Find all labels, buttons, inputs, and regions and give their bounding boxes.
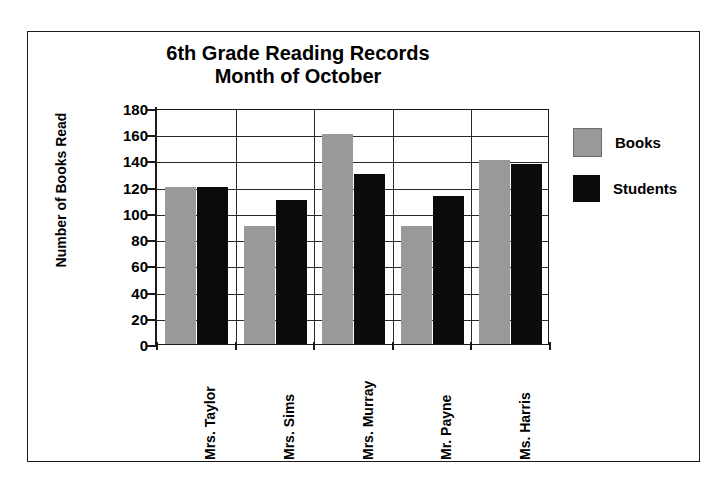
bar-students (433, 196, 464, 344)
y-axis-tick (147, 161, 156, 163)
legend-item-students: Students (573, 175, 713, 202)
plot-wrapper: 180160140120100806040200 (156, 109, 549, 345)
bar-students (197, 187, 228, 344)
bar-books (165, 187, 196, 344)
y-axis-tick (147, 345, 156, 347)
bar-group (314, 110, 393, 344)
y-axis-tick (147, 240, 156, 242)
x-axis-tick (235, 342, 237, 350)
y-axis-tick (147, 319, 156, 321)
y-axis-tick-label: 0 (96, 338, 148, 353)
y-axis-tick (147, 214, 156, 216)
x-axis-label-mrs-taylor: Mrs. Taylor (202, 340, 218, 460)
y-axis-title: Number of Books Read (53, 95, 69, 285)
bar-group (471, 110, 549, 344)
y-axis-tick-labels: 180160140120100806040200 (96, 109, 148, 345)
y-axis-tick-label: 100 (96, 206, 148, 221)
bar-books (244, 226, 275, 344)
y-axis-tick-label: 120 (96, 180, 148, 195)
bar-students (511, 164, 542, 344)
x-axis-label-ms-harris: Ms. Harris (517, 340, 533, 460)
chart-title-line-1: 6th Grade Reading Records (28, 42, 568, 65)
bar-students (276, 200, 307, 344)
y-axis-tick-label: 20 (96, 311, 148, 326)
bar-group (157, 110, 236, 344)
y-axis-tick (147, 188, 156, 190)
y-axis-tick (147, 293, 156, 295)
bar-group (393, 110, 472, 344)
legend-label-students: Students (613, 180, 677, 197)
x-axis-label-mrs-sims: Mrs. Sims (281, 340, 297, 460)
y-axis-tick-label: 180 (96, 102, 148, 117)
legend-label-books: Books (615, 134, 661, 151)
legend-item-books: Books (573, 128, 713, 157)
y-axis-tick-label: 140 (96, 154, 148, 169)
x-axis-tick (156, 342, 158, 350)
bar-books (322, 134, 353, 344)
y-axis-tick-label: 80 (96, 233, 148, 248)
x-axis-tick (392, 342, 394, 350)
y-axis-tick (147, 135, 156, 137)
y-axis-tick-label: 160 (96, 128, 148, 143)
plot-area (156, 109, 549, 345)
chart-legend: Books Students (573, 128, 713, 220)
x-axis-label-mrs-murray: Mrs. Murray (360, 340, 376, 460)
y-axis-tick (147, 266, 156, 268)
legend-swatch-students-icon (573, 175, 600, 202)
bar-books (479, 160, 510, 344)
x-axis-label-mr-payne: Mr. Payne (438, 340, 454, 460)
x-axis-tick (549, 342, 551, 350)
x-axis-category-labels: Mrs. TaylorMrs. SimsMrs. MurrayMr. Payne… (156, 348, 549, 468)
y-axis-tick (147, 109, 156, 111)
bar-students (354, 174, 385, 344)
y-axis-tick-label: 60 (96, 259, 148, 274)
x-axis-tick (470, 342, 472, 350)
y-axis-tick-label: 40 (96, 285, 148, 300)
chart-title: 6th Grade Reading Records Month of Octob… (28, 42, 568, 88)
bar-books (401, 226, 432, 344)
x-axis-tick (313, 342, 315, 350)
chart-frame: 6th Grade Reading Records Month of Octob… (27, 31, 700, 462)
bar-group (236, 110, 315, 344)
chart-title-line-2: Month of October (28, 65, 568, 88)
legend-swatch-books-icon (573, 128, 602, 157)
